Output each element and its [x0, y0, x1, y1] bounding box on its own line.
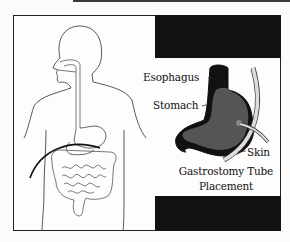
- feeding-tube-external: [30, 145, 100, 178]
- diagram-art: [0, 0, 290, 242]
- caption-line-1: Gastrostomy Tube: [170, 166, 282, 177]
- label-skin: Skin: [247, 147, 270, 158]
- caption-line-2: Placement: [170, 181, 282, 192]
- intestines: [51, 150, 116, 216]
- label-stomach: Stomach: [153, 100, 198, 111]
- stomach-icon: [182, 88, 248, 150]
- esophagus-tube: [58, 60, 80, 130]
- label-esophagus: Esophagus: [143, 72, 199, 83]
